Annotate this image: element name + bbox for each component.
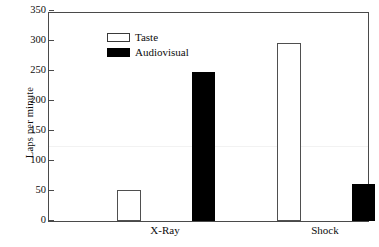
y-tick: 100	[49, 160, 54, 161]
y-tick: 150	[49, 130, 54, 131]
bar-chart-figure: Laps per minute 050100150200250300350 Ta…	[0, 0, 379, 247]
y-tick: 200	[49, 100, 54, 101]
x-category-label-shock: Shock	[275, 224, 375, 236]
y-tick-label: 50	[36, 183, 47, 196]
legend-label: Audiovisual	[135, 46, 189, 58]
y-tick-mark	[49, 190, 54, 191]
y-tick-label: 0	[41, 213, 46, 226]
open-square-swatch	[107, 33, 130, 42]
y-tick-mark	[49, 160, 54, 161]
y-tick-label: 300	[30, 33, 46, 46]
bar-x-ray-taste	[117, 190, 141, 221]
y-tick: 300	[49, 40, 54, 41]
y-tick-label: 350	[30, 3, 46, 16]
x-category-label-x-ray: X-Ray	[115, 224, 215, 236]
y-tick-mark	[49, 40, 54, 41]
y-tick-mark	[49, 70, 54, 71]
y-tick: 250	[49, 70, 54, 71]
y-tick-mark	[49, 130, 54, 131]
bar-x-ray-audiovisual	[192, 72, 215, 221]
y-tick: 350	[49, 10, 54, 11]
legend-label: Taste	[135, 31, 158, 43]
y-tick-mark	[49, 10, 54, 11]
y-tick: 50	[49, 190, 54, 191]
y-tick-mark	[49, 220, 54, 221]
plot-area: 050100150200250300350 TasteAudiovisual	[48, 12, 369, 222]
y-tick-label: 100	[30, 153, 46, 166]
y-tick: 0	[49, 220, 54, 221]
y-tick-label: 250	[30, 63, 46, 76]
chart-legend: TasteAudiovisual	[107, 31, 189, 58]
bar-shock-audiovisual	[352, 184, 375, 221]
filled-square-swatch	[107, 48, 130, 57]
legend-item-taste: Taste	[107, 31, 189, 43]
y-tick-label: 200	[30, 93, 46, 106]
y-tick-label: 150	[30, 123, 46, 136]
legend-item-audiovisual: Audiovisual	[107, 46, 189, 58]
y-tick-mark	[49, 100, 54, 101]
bar-shock-taste	[277, 43, 301, 221]
